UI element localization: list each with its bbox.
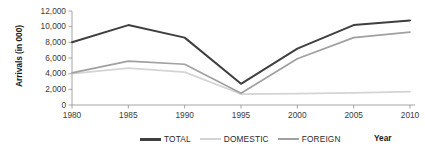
legend-label-total: TOTAL: [164, 134, 191, 144]
x-axis-tick-label: 2010: [388, 110, 425, 120]
x-axis-tick-label: 1985: [106, 110, 150, 120]
chart-legend: TOTALDOMESTICFOREIGN: [140, 132, 341, 146]
series-line-domestic: [72, 68, 410, 94]
x-axis-tick-label: 1995: [219, 110, 263, 120]
x-axis-tick-label: 2000: [275, 110, 319, 120]
legend-label-domestic: DOMESTIC: [224, 134, 269, 144]
x-axis-tick-label: 1990: [163, 110, 207, 120]
legend-item-domestic[interactable]: DOMESTIC: [200, 134, 269, 144]
x-axis-tick-label: 1980: [50, 110, 94, 120]
plot-area: [0, 0, 425, 153]
legend-swatch-foreign: [278, 138, 299, 141]
legend-swatch-domestic: [200, 138, 221, 141]
x-axis-title: Year: [374, 133, 392, 143]
x-axis-tick-label: 2005: [332, 110, 376, 120]
legend-swatch-total: [140, 138, 161, 141]
legend-item-total[interactable]: TOTAL: [140, 134, 191, 144]
series-line-total: [72, 20, 410, 83]
legend-label-foreign: FOREIGN: [302, 134, 341, 144]
line-chart: Arrivals (in 000) 02,0004,0006,0008,0001…: [0, 0, 425, 153]
legend-item-foreign[interactable]: FOREIGN: [278, 134, 341, 144]
